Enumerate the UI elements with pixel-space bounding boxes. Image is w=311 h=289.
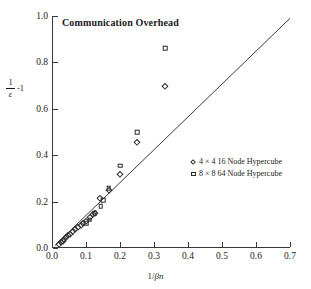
y-tick: 0.2 xyxy=(53,202,58,203)
data-point xyxy=(92,211,97,216)
y-tick: 0.6 xyxy=(53,109,58,110)
x-tick: 0.4 xyxy=(188,242,189,247)
chart-figure: Communication Overhead 1 ε -1 0.00.20.40… xyxy=(0,0,311,289)
y-axis-fraction: 1 ε xyxy=(6,78,15,99)
chart-legend: 4 × 4 16 Node Hypercube8 × 8 64 Node Hyp… xyxy=(188,156,282,180)
legend-item: 4 × 4 16 Node Hypercube xyxy=(188,156,282,168)
data-point xyxy=(87,217,92,222)
y-tick: 1.0 xyxy=(53,16,58,17)
y-tick-label: 1.0 xyxy=(36,11,48,21)
x-tick-label: 0.3 xyxy=(148,251,160,261)
data-point xyxy=(135,130,140,135)
y-axis-label: 1 ε -1 xyxy=(6,78,24,99)
legend-item: 8 × 8 64 Node Hypercube xyxy=(188,168,282,180)
y-axis-denominator: ε xyxy=(8,90,13,99)
y-tick: 0.8 xyxy=(53,62,58,63)
y-tick: 0.0 xyxy=(53,248,58,249)
diamond-marker-icon xyxy=(188,160,199,164)
legend-item-label: 8 × 8 64 Node Hypercube xyxy=(199,168,282,180)
x-tick-label: 0.7 xyxy=(284,251,296,261)
data-point xyxy=(101,198,106,203)
y-tick-label: 0.4 xyxy=(36,150,48,160)
x-tick-label: 0.5 xyxy=(216,251,228,261)
x-tick-label: 0.1 xyxy=(80,251,92,261)
x-tick: 0.3 xyxy=(154,242,155,247)
y-tick-label: 0.6 xyxy=(36,104,48,114)
x-tick-label: 0.6 xyxy=(250,251,262,261)
x-tick: 0.0 xyxy=(52,242,53,247)
x-tick: 0.6 xyxy=(256,242,257,247)
reference-line xyxy=(52,16,290,248)
x-tick: 0.5 xyxy=(222,242,223,247)
y-tick-label: 0.2 xyxy=(36,197,48,207)
x-tick: 0.2 xyxy=(120,242,121,247)
x-tick-label: 0.2 xyxy=(114,251,126,261)
x-tick-label: 0.4 xyxy=(182,251,194,261)
x-tick: 0.7 xyxy=(290,242,291,247)
y-tick-label: 0.8 xyxy=(36,57,48,67)
x-tick-label: 0.0 xyxy=(46,251,58,261)
data-point xyxy=(106,186,111,191)
y-axis-suffix: -1 xyxy=(17,84,24,93)
plot-area: 0.00.20.40.60.81.0 0.00.10.20.30.40.50.6… xyxy=(52,16,290,248)
legend-item-label: 4 × 4 16 Node Hypercube xyxy=(199,156,282,168)
x-tick: 0.1 xyxy=(86,242,87,247)
data-point xyxy=(118,163,123,168)
x-axis-label: 1/βn xyxy=(0,271,311,281)
x-axis-label-prefix: 1/ xyxy=(148,271,155,281)
data-point xyxy=(98,204,103,209)
y-tick: 0.4 xyxy=(53,155,58,156)
y-axis-numerator: 1 xyxy=(7,78,13,87)
x-axis-label-symbol: βn xyxy=(155,271,164,281)
square-marker-icon xyxy=(188,172,199,176)
data-point xyxy=(163,46,168,51)
